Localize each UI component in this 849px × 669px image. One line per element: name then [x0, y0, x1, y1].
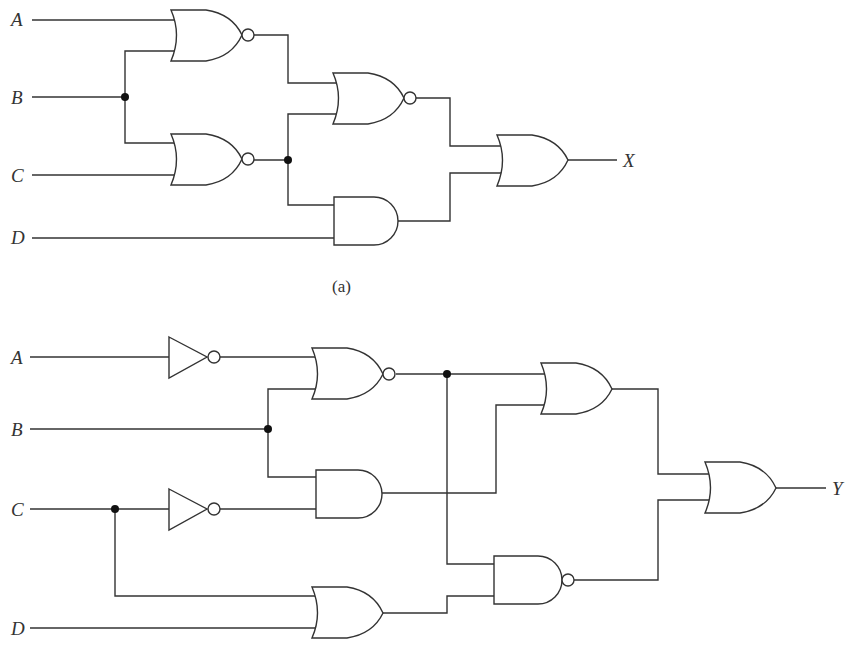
junction-dot: [284, 156, 292, 164]
wires-a: [32, 20, 617, 238]
or-gate-a5: [497, 135, 568, 186]
input-label-a-C: C: [11, 165, 24, 186]
output-label-X: X: [622, 150, 636, 171]
input-label-b-C: C: [11, 499, 24, 520]
junction-dot: [264, 425, 272, 433]
input-label-a-B: B: [11, 87, 23, 108]
nor-gate-a3: [333, 73, 416, 124]
nand-gate-b7: [494, 556, 574, 604]
nor-gate-b3: [312, 348, 395, 399]
circuit-b: A B C D: [9, 337, 845, 639]
junction-dot: [121, 93, 129, 101]
wires-b: [30, 357, 826, 628]
or-gate-b6: [541, 363, 612, 414]
input-label-b-A: A: [9, 347, 23, 368]
not-gate-b2: [169, 489, 220, 530]
or-gate-b5: [312, 587, 383, 638]
junction-dot: [111, 505, 119, 513]
input-label-a-D: D: [10, 227, 25, 248]
or-gate-b8: [705, 462, 776, 513]
and-gate-a4: [334, 197, 398, 245]
circuit-a: A B C D: [9, 9, 636, 296]
input-label-a-A: A: [9, 9, 23, 30]
input-label-b-B: B: [11, 419, 23, 440]
input-label-b-D: D: [10, 618, 25, 639]
junction-dot: [443, 370, 451, 378]
not-gate-b1: [169, 337, 220, 378]
nor-gate-a2: [171, 134, 254, 185]
logic-circuit-diagrams: A B C D: [0, 0, 849, 669]
caption-a: (a): [332, 277, 351, 296]
output-label-Y: Y: [832, 478, 845, 499]
nor-gate-a1: [171, 10, 254, 61]
and-gate-b4: [316, 470, 382, 518]
